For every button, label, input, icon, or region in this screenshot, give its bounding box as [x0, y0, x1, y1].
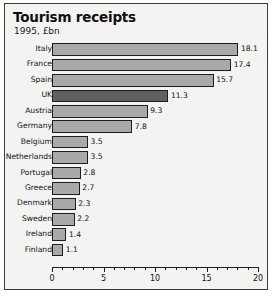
bar [52, 59, 231, 72]
bar [52, 43, 238, 56]
bar-wrapper [52, 167, 81, 180]
x-tick-label: 5 [101, 274, 106, 283]
x-tick-major [258, 267, 259, 272]
bar [52, 167, 81, 180]
bar [52, 213, 75, 226]
bar-row: Greece2.7 [5, 181, 267, 196]
bar-row: Sweden2.2 [5, 212, 267, 227]
x-tick-minor [124, 267, 125, 270]
bar-row: Finland1.1 [5, 243, 267, 258]
bar-value-label: 3.5 [91, 137, 103, 146]
category-label: Belgium [0, 137, 52, 146]
bar-value-label: 11.3 [171, 91, 188, 100]
x-tick-label: 20 [253, 274, 263, 283]
category-label: Ireland [0, 229, 52, 238]
x-tick-minor [196, 267, 197, 270]
bar-value-label: 2.7 [82, 183, 94, 192]
bar-wrapper [52, 120, 132, 133]
x-tick-minor [134, 267, 135, 270]
bar-value-label: 7.8 [135, 122, 147, 131]
x-tick-minor [186, 267, 187, 270]
chart-subtitle: 1995, £bn [14, 26, 60, 36]
bar [52, 244, 63, 257]
bar-wrapper [52, 59, 231, 72]
category-label: Italy [0, 44, 52, 53]
bar-row: Belgium3.5 [5, 135, 267, 150]
bar-wrapper [52, 228, 66, 241]
bar [52, 74, 214, 87]
x-tick-minor [165, 267, 166, 270]
x-tick-minor [248, 267, 249, 270]
x-tick-minor [217, 267, 218, 270]
category-label: Sweden [0, 214, 52, 223]
bar-wrapper [52, 151, 88, 164]
chart-title: Tourism receipts [13, 9, 136, 25]
bar-wrapper [52, 90, 168, 103]
bar-value-label: 3.5 [91, 152, 103, 161]
x-tick-label: 10 [150, 274, 160, 283]
category-label: Finland [0, 245, 52, 254]
bar-row: Portugal2.8 [5, 166, 267, 181]
x-tick-minor [73, 267, 74, 270]
x-tick-minor [83, 267, 84, 270]
bar [52, 136, 88, 149]
bar [52, 151, 88, 164]
category-label: France [0, 59, 52, 68]
bar [52, 182, 80, 195]
x-tick-major [52, 267, 53, 272]
bar [52, 90, 168, 103]
bar-wrapper [52, 244, 63, 257]
category-label: UK [0, 90, 52, 99]
category-label: Spain [0, 75, 52, 84]
category-label: Portugal [0, 168, 52, 177]
bar [52, 105, 148, 118]
bar-value-label: 15.7 [216, 75, 233, 84]
bar-wrapper [52, 198, 76, 211]
category-label: Denmark [0, 198, 52, 207]
category-label: Austria [0, 106, 52, 115]
x-tick-label: 15 [201, 274, 211, 283]
x-tick-minor [227, 267, 228, 270]
x-tick-minor [237, 267, 238, 270]
bar-wrapper [52, 105, 148, 118]
x-tick-label: 0 [49, 274, 54, 283]
bar-value-label: 9.3 [150, 106, 162, 115]
bar-row: UK11.3 [5, 88, 267, 103]
bar-row: Germany7.8 [5, 119, 267, 134]
bar [52, 120, 132, 133]
bar-row: Italy18.1 [5, 42, 267, 57]
x-tick-minor [176, 267, 177, 270]
bar-wrapper [52, 213, 75, 226]
plot-area: Italy18.1France17.4Spain15.7UK11.3Austri… [5, 42, 267, 266]
bar [52, 198, 76, 211]
bar-row: Spain15.7 [5, 73, 267, 88]
x-tick-major [207, 267, 208, 272]
bar-value-label: 18.1 [241, 44, 258, 53]
x-tick-minor [114, 267, 115, 270]
chart-frame: Tourism receipts 1995, £bn Italy18.1Fran… [4, 3, 268, 290]
bar-row: Denmark2.3 [5, 196, 267, 211]
bar-row: Austria9.3 [5, 104, 267, 119]
bar [52, 228, 66, 241]
bar-value-label: 17.4 [234, 60, 251, 69]
bar-row: Netherlands3.5 [5, 150, 267, 165]
bar-value-label: 2.2 [77, 214, 89, 223]
bar-value-label: 2.8 [83, 168, 95, 177]
category-label: Greece [0, 183, 52, 192]
x-tick-minor [62, 267, 63, 270]
bar-value-label: 1.4 [69, 230, 81, 239]
bar-wrapper [52, 182, 80, 195]
category-label: Germany [0, 121, 52, 130]
bar-wrapper [52, 43, 238, 56]
bar-wrapper [52, 74, 214, 87]
bar-value-label: 2.3 [78, 199, 90, 208]
bar-value-label: 1.1 [66, 245, 78, 254]
x-tick-major [104, 267, 105, 272]
bar-wrapper [52, 136, 88, 149]
x-tick-minor [145, 267, 146, 270]
bar-row: France17.4 [5, 57, 267, 72]
x-tick-major [155, 267, 156, 272]
x-tick-minor [93, 267, 94, 270]
bar-row: Ireland1.4 [5, 227, 267, 242]
category-label: Netherlands [0, 152, 52, 161]
